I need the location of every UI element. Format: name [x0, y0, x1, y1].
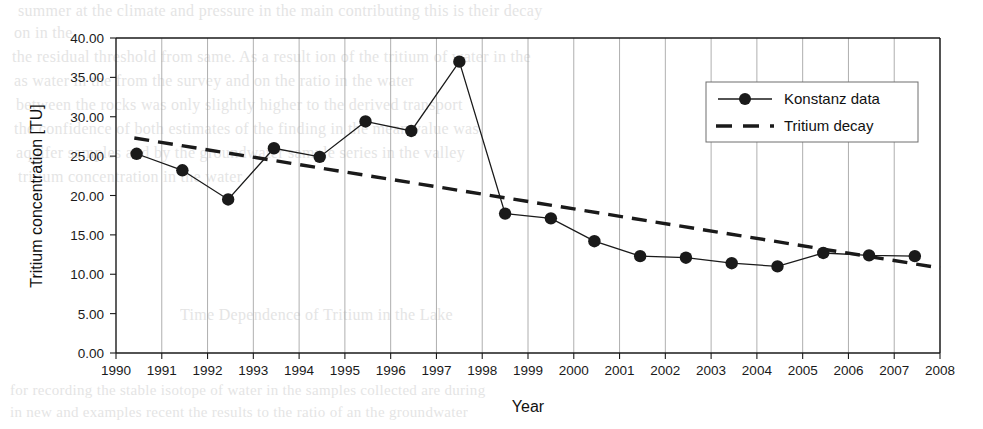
y-tick-label: 15.00	[70, 228, 104, 243]
data-point-marker	[634, 250, 646, 262]
y-tick-label: 35.00	[70, 70, 104, 85]
x-tick-label: 1994	[284, 363, 315, 378]
data-point-marker	[405, 125, 417, 137]
legend-label-decay: Tritium decay	[784, 117, 874, 134]
x-tick-label: 2002	[650, 363, 680, 378]
x-tick-label: 1995	[330, 363, 360, 378]
data-point-marker	[726, 257, 738, 269]
data-point-marker	[176, 164, 188, 176]
y-tick-label: 0.00	[78, 346, 104, 361]
legend-marker-konstanz-circle-icon	[739, 93, 751, 105]
chart-legend: Konstanz data Tritium decay	[706, 82, 918, 142]
x-tick-label: 2004	[742, 363, 773, 378]
x-tick-label: 2007	[879, 363, 909, 378]
data-point-marker	[130, 148, 142, 160]
y-tick-label: 10.00	[70, 267, 104, 282]
tritium-concentration-chart: 0.005.0010.0015.0020.0025.0030.0035.0040…	[0, 0, 983, 429]
y-tick-label: 25.00	[70, 149, 104, 164]
x-tick-label: 1990	[101, 363, 131, 378]
data-point-marker	[359, 115, 371, 127]
x-tick-label: 1991	[147, 363, 177, 378]
y-axis-tick-marks	[110, 38, 116, 353]
data-point-marker	[863, 249, 875, 261]
data-point-marker	[817, 247, 829, 259]
data-point-marker	[222, 193, 234, 205]
x-tick-label: 1996	[376, 363, 406, 378]
y-tick-label: 20.00	[70, 189, 104, 204]
x-axis-title: Year	[512, 398, 545, 415]
x-tick-label: 1999	[513, 363, 543, 378]
legend-label-konstanz: Konstanz data	[784, 90, 881, 107]
x-axis-tick-labels: 1990199119921993199419951996199719981999…	[101, 363, 955, 378]
data-point-marker	[545, 212, 557, 224]
x-tick-label: 2003	[696, 363, 726, 378]
data-point-marker	[453, 55, 465, 67]
y-tick-label: 30.00	[70, 110, 104, 125]
x-tick-label: 2001	[605, 363, 635, 378]
x-axis-tick-marks	[116, 353, 940, 359]
x-tick-label: 1993	[238, 363, 268, 378]
x-tick-label: 2000	[559, 363, 589, 378]
data-point-marker	[499, 207, 511, 219]
data-point-marker	[680, 252, 692, 264]
y-axis-tick-labels: 0.005.0010.0015.0020.0025.0030.0035.0040…	[70, 31, 104, 361]
x-tick-label: 2005	[788, 363, 818, 378]
data-point-marker	[909, 250, 921, 262]
x-tick-label: 1998	[467, 363, 497, 378]
y-axis-title: Tritium concentration [TU]	[28, 104, 45, 287]
y-tick-label: 5.00	[78, 307, 104, 322]
data-point-marker	[314, 151, 326, 163]
x-tick-label: 1997	[421, 363, 451, 378]
y-tick-label: 40.00	[70, 31, 104, 46]
x-tick-label: 2006	[833, 363, 863, 378]
x-tick-label: 1992	[193, 363, 223, 378]
data-point-marker	[771, 260, 783, 272]
data-point-marker	[588, 235, 600, 247]
data-point-marker	[268, 142, 280, 154]
x-tick-label: 2008	[925, 363, 955, 378]
